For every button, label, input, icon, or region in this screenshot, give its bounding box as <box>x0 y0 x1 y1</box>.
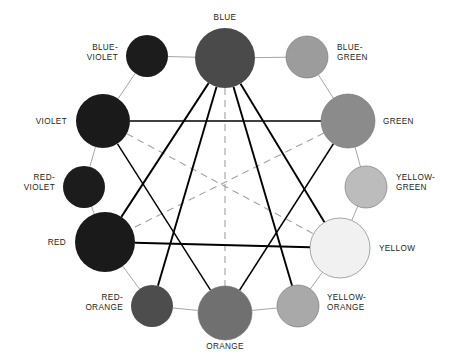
color-label-line: ORANGE <box>327 303 365 312</box>
color-swatch-red-violet[interactable] <box>63 166 105 208</box>
color-label-violet: VIOLET <box>36 117 67 126</box>
color-swatch-red-orange[interactable] <box>131 285 173 327</box>
color-label-orange: ORANGE <box>206 342 244 351</box>
color-swatch-green[interactable] <box>321 94 375 148</box>
color-swatch-blue[interactable] <box>195 28 255 88</box>
color-label-line: VIOLET <box>87 53 118 62</box>
color-wheel-diagram: BLUEBLUE-GREENGREENYELLOW-GREENYELLOWYEL… <box>0 0 457 355</box>
color-label-green: GREEN <box>383 117 414 126</box>
color-label-line: RED <box>48 238 66 247</box>
color-label-line: BLUE- <box>92 43 118 52</box>
color-label-line: RED- <box>34 173 55 182</box>
color-label-line: ORANGE <box>85 303 123 312</box>
color-label-line: BLUE <box>214 13 237 22</box>
color-swatch-orange[interactable] <box>198 286 252 340</box>
color-swatch-blue-violet[interactable] <box>126 35 168 77</box>
color-label-line: GREEN <box>337 53 368 62</box>
color-label-line: GREEN <box>383 117 414 126</box>
color-label-line: RED- <box>102 293 123 302</box>
color-label-red: RED <box>48 238 66 247</box>
color-label-line: YELLOW <box>379 244 415 253</box>
color-label-yellow-orange: YELLOW-ORANGE <box>327 293 366 312</box>
color-label-line: ORANGE <box>206 342 244 351</box>
color-label-blue: BLUE <box>214 13 237 22</box>
color-swatch-yellow-green[interactable] <box>345 166 387 208</box>
color-label-line: VIOLET <box>24 183 55 192</box>
color-swatch-yellow[interactable] <box>310 218 370 278</box>
color-swatch-yellow-orange[interactable] <box>277 285 319 327</box>
color-label-line: BLUE- <box>337 43 363 52</box>
color-swatch-violet[interactable] <box>76 94 130 148</box>
color-swatch-red[interactable] <box>75 212 135 272</box>
color-label-yellow: YELLOW <box>379 244 415 253</box>
color-label-blue-violet: BLUE-VIOLET <box>87 43 118 62</box>
color-label-line: VIOLET <box>36 117 67 126</box>
color-swatch-blue-green[interactable] <box>286 36 328 78</box>
color-label-line: YELLOW- <box>396 173 435 182</box>
color-label-line: GREEN <box>396 183 427 192</box>
color-label-line: YELLOW- <box>327 293 366 302</box>
